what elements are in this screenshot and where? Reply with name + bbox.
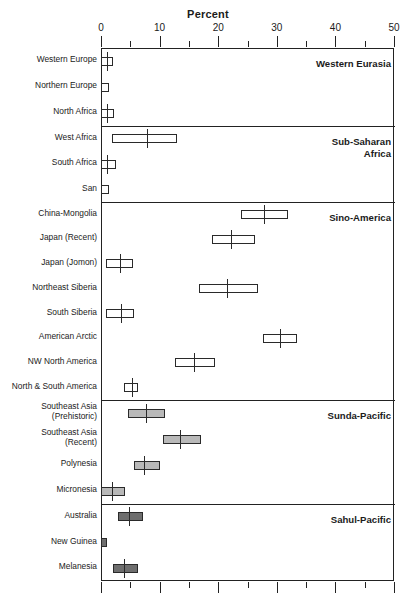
median-line [194, 353, 195, 372]
x-axis-tick [248, 41, 249, 47]
median-line [107, 52, 108, 71]
range-box [101, 160, 116, 169]
x-axis-tick [335, 582, 336, 593]
range-box [112, 134, 177, 143]
row-label: Polynesia [61, 459, 97, 469]
row-label: Southeast Asia (Prehistoric) [41, 402, 97, 421]
x-axis-tick [306, 41, 307, 47]
panel-divider [101, 504, 395, 505]
x-axis-tick [394, 582, 395, 593]
row-label: Southeast Asia (Recent) [41, 428, 97, 447]
median-line [107, 104, 108, 123]
x-axis-tick [394, 36, 395, 47]
row-label: North & South America [12, 382, 97, 392]
median-line [120, 254, 121, 273]
x-axis-tick [365, 582, 366, 588]
x-axis-tick [130, 582, 131, 588]
median-line [132, 378, 133, 397]
row-label: China-Mongolia [38, 209, 97, 219]
range-box [212, 235, 255, 244]
panel-title: Sino-America [329, 212, 391, 224]
row-label: Australia [64, 511, 97, 521]
x-axis-tick [160, 582, 161, 593]
row-label: North Africa [53, 107, 97, 117]
row-label: American Arctic [39, 332, 97, 342]
x-axis-tick [306, 582, 307, 588]
row-label: Micronesia [57, 485, 98, 495]
range-box [199, 284, 258, 293]
row-label: Northeast Siberia [32, 283, 97, 293]
x-axis-tick [189, 582, 190, 588]
row-label: San [82, 184, 97, 194]
x-axis-tick [160, 36, 161, 47]
panel-title: Sahul-Pacific [331, 514, 391, 526]
x-tick-label: 50 [374, 22, 414, 33]
plot-frame [101, 48, 394, 581]
x-axis-tick [218, 582, 219, 593]
row-label: South Siberia [47, 308, 97, 318]
median-line [124, 559, 125, 578]
range-box [101, 83, 109, 92]
row-label: NW North America [28, 357, 97, 367]
x-tick-label: 40 [315, 22, 355, 33]
range-box [163, 435, 201, 444]
x-tick-label: 0 [81, 22, 121, 33]
range-box [101, 538, 107, 547]
row-label: South Africa [52, 158, 97, 168]
x-axis-tick [335, 36, 336, 47]
row-label: Melanesia [59, 562, 97, 572]
median-line [144, 456, 145, 475]
median-line [231, 230, 232, 249]
median-line [112, 482, 113, 501]
row-label: West Africa [55, 133, 97, 143]
x-axis-tick [277, 582, 278, 593]
range-box [134, 461, 160, 470]
median-line [180, 430, 181, 449]
x-axis-tick [248, 582, 249, 588]
x-tick-label: 10 [140, 22, 180, 33]
range-box [101, 185, 109, 194]
x-axis-tick [218, 36, 219, 47]
median-line [121, 304, 122, 323]
row-label: New Guinea [51, 537, 97, 547]
chart-root: Percent 01020304050 Western EurasiaSub-S… [0, 0, 416, 599]
row-label: Japan (Jomon) [41, 258, 97, 268]
x-axis-tick [277, 36, 278, 47]
axis-title: Percent [0, 8, 416, 20]
median-line [146, 404, 147, 423]
panel-divider [101, 202, 395, 203]
median-line [107, 155, 108, 174]
x-axis-tick [130, 41, 131, 47]
panel-divider [101, 126, 395, 127]
panel-title: Sunda-Pacific [328, 410, 391, 422]
range-box [118, 512, 143, 521]
x-tick-label: 30 [257, 22, 297, 33]
x-axis-tick [365, 41, 366, 47]
median-line [129, 507, 130, 526]
row-label: Western Europe [37, 55, 97, 65]
median-line [227, 279, 228, 298]
x-axis-tick [101, 582, 102, 593]
median-line [280, 329, 281, 348]
median-line [147, 129, 148, 148]
x-tick-label: 20 [198, 22, 238, 33]
x-axis-tick [189, 41, 190, 47]
x-axis-tick [101, 36, 102, 47]
panel-title: Western Eurasia [316, 58, 391, 70]
row-label: Japan (Recent) [40, 233, 97, 243]
median-line [264, 205, 265, 224]
panel-title: Sub-Saharan Africa [332, 136, 391, 159]
panel-divider [101, 400, 395, 401]
range-box [113, 564, 138, 573]
row-label: Northern Europe [35, 81, 97, 91]
